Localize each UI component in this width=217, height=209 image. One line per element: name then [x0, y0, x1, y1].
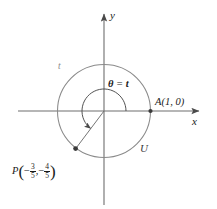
terminal-ray: [76, 111, 104, 148]
angle-value: t: [126, 78, 129, 89]
angle-label: θ = t: [108, 79, 129, 90]
point-p-marker: [73, 146, 78, 151]
open-paren: (: [18, 162, 24, 181]
angle-equals: =: [113, 78, 125, 89]
close-paren: ): [50, 162, 56, 181]
point-a-marker: [148, 109, 152, 113]
y-axis-label: y: [110, 10, 115, 21]
point-p-x-denominator: 5: [30, 172, 36, 180]
point-a-label: A(1, 0): [155, 97, 184, 108]
point-p-x-fraction: 35: [30, 163, 36, 180]
point-p-label: P(−35,−45): [12, 163, 56, 180]
arc-length-label: t: [58, 62, 61, 72]
unit-circle-figure: y x t θ = t A(1, 0) U P(−35,−45): [0, 0, 217, 209]
circle-name-label: U: [140, 143, 148, 154]
x-axis-label: x: [192, 116, 197, 127]
